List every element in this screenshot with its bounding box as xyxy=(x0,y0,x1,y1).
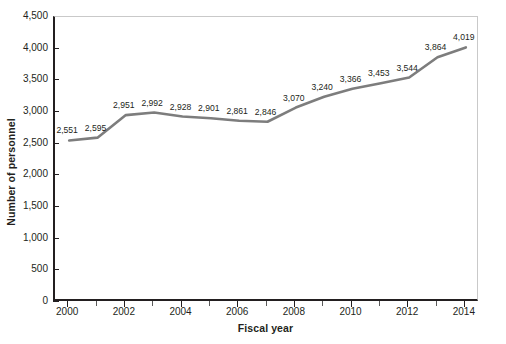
x-axis-tick-label: 2010 xyxy=(329,306,373,317)
data-point-label: 3,070 xyxy=(283,94,305,103)
y-axis-tick-labels: 05001,0001,5002,0002,5003,0003,5004,0004… xyxy=(0,16,48,301)
data-point-label: 4,019 xyxy=(453,33,475,42)
y-axis-tick-label: 4,500 xyxy=(4,11,48,21)
data-point-label: 2,928 xyxy=(170,103,192,112)
y-axis-tick-label: 0 xyxy=(4,296,48,306)
data-point-label: 2,861 xyxy=(226,107,248,116)
data-point-label: 2,595 xyxy=(85,124,107,133)
line-chart: Number of personnel 05001,0001,5002,0002… xyxy=(0,0,506,344)
y-axis-tick-label: 1,500 xyxy=(4,201,48,211)
x-axis-tick-label: 2014 xyxy=(442,306,486,317)
y-axis-tick-label: 2,000 xyxy=(4,169,48,179)
x-axis-tick-label: 2000 xyxy=(45,306,89,317)
data-point-label: 3,366 xyxy=(340,75,362,84)
y-axis-tick-label: 3,500 xyxy=(4,74,48,84)
data-point-label: 3,453 xyxy=(368,69,390,78)
data-point-label: 2,992 xyxy=(141,99,163,108)
x-axis-tick-label: 2008 xyxy=(272,306,316,317)
data-point-label: 3,544 xyxy=(396,64,418,73)
data-point-label: 3,864 xyxy=(425,43,447,52)
data-point-label: 2,551 xyxy=(56,126,78,135)
x-axis-title: Fiscal year xyxy=(53,322,478,334)
y-axis-tick-label: 4,000 xyxy=(4,43,48,53)
data-point-label: 3,240 xyxy=(311,83,333,92)
x-axis-tick-label: 2004 xyxy=(159,306,203,317)
x-axis-tick-label: 2002 xyxy=(102,306,146,317)
data-point-label: 2,846 xyxy=(255,108,277,117)
y-axis-tick-label: 500 xyxy=(4,264,48,274)
data-point-label: 2,951 xyxy=(113,101,135,110)
x-axis-tick-label: 2012 xyxy=(385,306,429,317)
y-axis-tick-label: 2,500 xyxy=(4,138,48,148)
data-series-line xyxy=(55,17,480,302)
x-axis-tick-label: 2006 xyxy=(215,306,259,317)
y-axis-tick-label: 1,000 xyxy=(4,233,48,243)
y-axis-tick-label: 3,000 xyxy=(4,106,48,116)
plot-area xyxy=(53,16,478,301)
data-point-label: 2,901 xyxy=(198,104,220,113)
